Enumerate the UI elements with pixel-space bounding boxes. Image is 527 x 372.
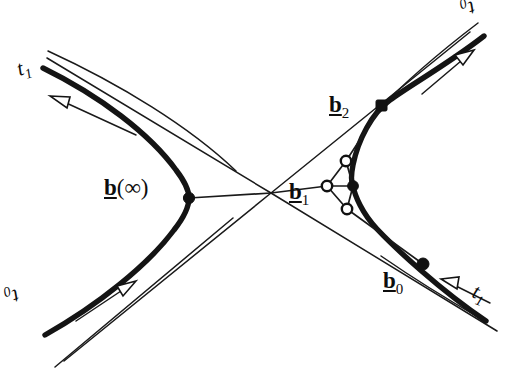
label-b-infinity-argument: (∞) <box>117 175 149 200</box>
label-b2: b2 <box>329 93 349 121</box>
label-b1-symbol: b <box>289 179 302 204</box>
chord-lower-b0 <box>347 209 423 264</box>
label-b1: b1 <box>289 180 309 208</box>
point-casteljau-on-curve <box>348 181 359 192</box>
diagram-svg <box>0 0 527 372</box>
guide-rail-top-left <box>48 51 236 171</box>
binf-to-crossing-line <box>189 193 271 198</box>
label-b2-subscript: 2 <box>342 105 350 121</box>
arrow-bottom-left <box>76 281 136 321</box>
right-hyperbola-branch <box>351 36 486 321</box>
label-b1-subscript: 1 <box>302 192 310 208</box>
point-b2 <box>376 100 387 111</box>
label-b0: b0 <box>383 269 403 297</box>
point-casteljau-left <box>322 181 332 191</box>
label-b0-symbol: b <box>383 268 396 293</box>
point-b0 <box>417 258 429 270</box>
point-b-infinity <box>183 192 194 203</box>
label-b-infinity-symbol: b <box>104 175 117 200</box>
chord-b2-upper <box>346 106 382 161</box>
point-casteljau-upper <box>341 156 351 166</box>
guide-rail-bottom-left <box>55 218 233 367</box>
label-b0-subscript: 0 <box>396 281 404 297</box>
label-b-infinity: b(∞) <box>104 176 149 199</box>
figure-canvas: b(∞) b1 b2 b0 t1 t0 t0 t1 <box>0 0 527 372</box>
point-casteljau-lower <box>342 204 352 214</box>
label-b2-symbol: b <box>329 92 342 117</box>
